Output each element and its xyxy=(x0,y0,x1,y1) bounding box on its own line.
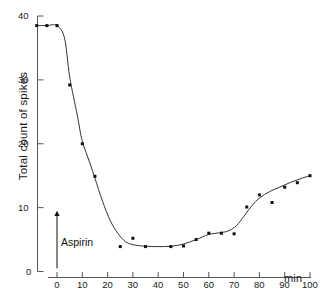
y-tick-label: 0 xyxy=(26,266,31,277)
figure: Total count of spikes min Aspirin 010203… xyxy=(0,0,327,291)
data-point-marker xyxy=(169,245,172,248)
data-point-marker xyxy=(131,237,134,240)
aspirin-arrow-head xyxy=(54,211,59,216)
annotation-aspirin xyxy=(54,211,59,268)
x-tick-label: 50 xyxy=(178,279,189,290)
chart-canvas xyxy=(0,0,327,291)
x-axis-ticks xyxy=(57,272,310,278)
x-tick-label: 40 xyxy=(153,279,164,290)
y-tick-label: 20 xyxy=(18,138,29,149)
data-point-marker xyxy=(283,186,286,189)
y-tick-label: 30 xyxy=(18,74,29,85)
data-point-marker xyxy=(195,238,198,241)
data-point-marker xyxy=(233,232,236,235)
y-tick-label: 10 xyxy=(18,202,29,213)
data-point-marker xyxy=(220,232,223,235)
data-point-marker xyxy=(35,24,38,27)
data-point-marker xyxy=(245,205,248,208)
y-axis-ticks xyxy=(38,16,44,272)
x-tick-label: 60 xyxy=(203,279,214,290)
data-point-marker xyxy=(271,201,274,204)
data-point-marker xyxy=(93,175,96,178)
x-tick-label: 20 xyxy=(102,279,113,290)
series-markers xyxy=(35,24,311,248)
x-tick-label: 30 xyxy=(128,279,139,290)
x-tick-label: 0 xyxy=(54,279,59,290)
data-point-marker xyxy=(309,174,312,177)
data-point-marker xyxy=(182,244,185,247)
data-point-marker xyxy=(144,245,147,248)
data-point-marker xyxy=(258,193,261,196)
data-point-marker xyxy=(68,83,71,86)
series-line xyxy=(37,25,310,247)
aspirin-annotation-label: Aspirin xyxy=(61,236,93,248)
x-tick-label: 70 xyxy=(229,279,240,290)
data-point-marker xyxy=(81,142,84,145)
data-point-marker xyxy=(207,232,210,235)
data-point-marker xyxy=(296,181,299,184)
x-tick-label: 90 xyxy=(279,279,290,290)
data-point-marker xyxy=(45,24,48,27)
data-point-marker xyxy=(119,245,122,248)
y-tick-label: 40 xyxy=(18,10,29,21)
data-point-marker xyxy=(56,24,59,27)
x-tick-label: 10 xyxy=(77,279,88,290)
data-series xyxy=(35,24,311,248)
x-tick-label: 100 xyxy=(302,279,318,290)
x-tick-label: 80 xyxy=(254,279,265,290)
